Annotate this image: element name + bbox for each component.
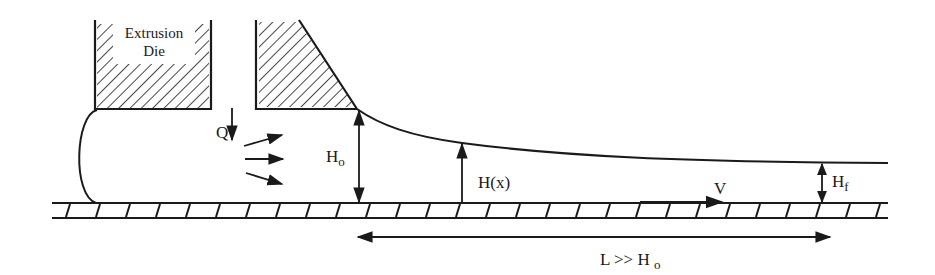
final-height-subscript: f <box>844 179 848 194</box>
final-height-main: H <box>832 172 844 191</box>
initial-height-main: H <box>326 147 338 166</box>
flow-rate-label: Q <box>216 124 228 141</box>
die-label: Extrusion Die <box>113 24 195 64</box>
length-relation-label: L >> H o <box>600 251 660 268</box>
initial-height-label: Ho <box>326 148 345 165</box>
free-surface-curve <box>357 109 888 163</box>
local-height-label: H(x) <box>478 174 510 191</box>
moving-belt <box>52 203 888 218</box>
final-height-label: Hf <box>832 173 849 190</box>
belt-velocity-label: V <box>714 180 726 197</box>
initial-height-subscript: o <box>338 154 345 169</box>
flow-arrows-icon <box>244 135 283 184</box>
right-die-block <box>256 20 357 109</box>
length-relation-main: L >> H <box>600 250 650 269</box>
die-label-line2: Die <box>113 42 195 60</box>
die-label-line1: Extrusion <box>113 24 195 42</box>
length-relation-subscript: o <box>654 257 661 272</box>
fluid-bulge-curve <box>79 110 97 203</box>
